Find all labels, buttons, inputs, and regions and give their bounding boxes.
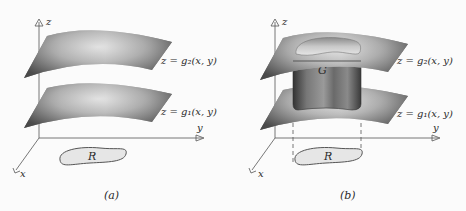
region-r-label: R (323, 150, 332, 163)
x-axis-label: x (258, 168, 264, 179)
upper-surface-label: z = g₂(x, y) (160, 55, 217, 66)
region-r-label: R (87, 150, 96, 163)
caption-a: (a) (104, 189, 119, 202)
y-axis-label: y (432, 122, 439, 133)
upper-surface-label: z = g₂(x, y) (396, 55, 453, 66)
x-axis (16, 138, 39, 170)
y-axis-label: y (196, 122, 203, 133)
z-axis-label: z (281, 16, 288, 27)
x-axis-label: x (20, 168, 26, 179)
caption-b: (b) (340, 189, 356, 202)
x-axis (252, 138, 275, 170)
diagram-svg: z y x z = g₂(x, y) z = g₁(x, y) R (a) z … (0, 0, 466, 211)
z-axis-label: z (45, 16, 52, 27)
figure-canvas: z y x z = g₂(x, y) z = g₁(x, y) R (a) z … (0, 0, 466, 211)
panel-a: z y x z = g₂(x, y) z = g₁(x, y) R (a) (13, 16, 217, 202)
lower-surface-label: z = g₁(x, y) (396, 108, 453, 119)
lower-surface-label: z = g₁(x, y) (160, 106, 217, 117)
panel-b: z y x z = g₁(x, y) G z = g₂(x, y) R (b) (249, 16, 453, 202)
